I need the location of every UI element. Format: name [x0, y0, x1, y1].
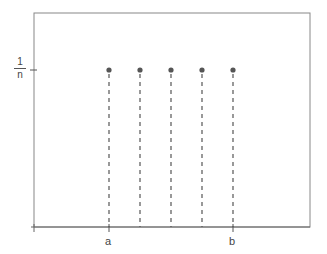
data-point [137, 67, 142, 72]
data-points [106, 67, 235, 72]
data-point [230, 67, 235, 72]
y-tick-numerator: 1 [14, 57, 26, 67]
y-tick-label: 1 n [14, 57, 26, 80]
data-point [168, 67, 173, 72]
stems [109, 74, 233, 227]
x-tick-label-a: a [105, 235, 111, 247]
data-point [106, 67, 111, 72]
plot-frame [34, 13, 310, 227]
x-tick-label-b: b [229, 235, 235, 247]
y-tick-denominator: n [14, 70, 26, 80]
data-point [199, 67, 204, 72]
plot-area [0, 0, 327, 254]
